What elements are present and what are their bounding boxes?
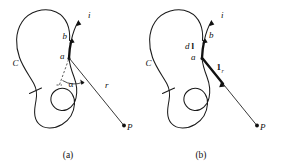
label-current-b: i	[221, 10, 224, 20]
panel-b: i C b d l a 1 r P (b)	[146, 10, 267, 161]
field-point-P-dot-a	[122, 124, 126, 128]
label-point-a-a: a	[60, 51, 65, 61]
field-point-P-dot-b	[255, 124, 259, 128]
current-loop-curve-a	[17, 10, 77, 128]
label-point-a-b: a	[191, 52, 196, 62]
current-loop-curve-b	[150, 10, 210, 128]
label-point-b-b: b	[209, 30, 214, 40]
label-element-l-b: l	[192, 41, 195, 51]
label-curve-C-a: C	[13, 58, 20, 68]
biot-savart-figure: i C b a α r P (a) i	[0, 0, 283, 167]
panel-caption-b: (b)	[195, 150, 206, 161]
label-curve-C-b: C	[146, 58, 153, 68]
label-element-d-b: d	[185, 41, 190, 51]
label-point-b-a: b	[63, 31, 68, 41]
angle-alpha-arrow-a	[80, 80, 84, 85]
label-distance-r-a: r	[105, 80, 109, 90]
tangent-dashed-a	[59, 60, 69, 87]
label-unit-vector-sub-b: r	[222, 68, 225, 74]
panel-caption-a: (a)	[63, 150, 74, 161]
figure-container: i C b a α r P (a) i	[0, 0, 283, 167]
label-field-point-P-b: P	[259, 122, 266, 132]
r-vector-line-a	[70, 59, 124, 126]
label-angle-alpha-a: α	[69, 79, 74, 89]
panel-a: i C b a α r P (a)	[13, 10, 134, 161]
label-field-point-P-a: P	[126, 122, 133, 132]
label-current-a: i	[88, 10, 91, 20]
